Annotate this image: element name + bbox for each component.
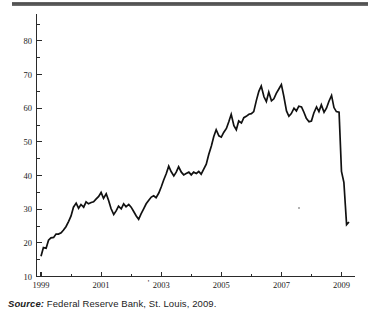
- y-tick-label: 70: [24, 70, 33, 80]
- x-tick-label: 2001: [93, 280, 110, 290]
- line-chart: 1020304050607080 19992001200320052007200…: [0, 8, 370, 294]
- x-tick-label: 2007: [273, 280, 290, 290]
- source-caption: Source: Federal Reserve Bank, St. Louis,…: [8, 298, 216, 309]
- y-tick-label: 50: [24, 137, 33, 147]
- data-series-line: [41, 85, 349, 257]
- y-axis-tick-labels: 1020304050607080: [24, 36, 33, 282]
- y-tick-label: 30: [24, 204, 33, 214]
- y-tick-label: 40: [24, 171, 33, 181]
- source-text: Federal Reserve Bank, St. Louis, 2009.: [47, 298, 217, 309]
- y-tick-label: 80: [24, 36, 33, 46]
- y-tick-label: 60: [24, 103, 33, 113]
- x-axis-tick-labels: 199920012003200520072009': [33, 278, 350, 291]
- x-tick-label: 2003: [153, 280, 170, 290]
- x-tick-label: 2005: [213, 280, 230, 290]
- source-label: Source:: [8, 298, 44, 309]
- y-tick-label: 10: [24, 272, 33, 282]
- x-tick-label: 2009: [333, 280, 350, 290]
- chart-axes: [37, 14, 356, 277]
- figure-container: 1020304050607080 19992001200320052007200…: [0, 0, 370, 318]
- top-rule-decoration: [12, 2, 368, 6]
- plot-area: 1020304050607080 19992001200320052007200…: [0, 8, 370, 294]
- scan-apostrophe-artifact: ': [148, 278, 150, 288]
- x-tick-label: 1999: [33, 280, 50, 290]
- data-series-group: [41, 85, 349, 257]
- print-speck-artifact: [298, 207, 300, 209]
- y-tick-label: 20: [24, 238, 33, 248]
